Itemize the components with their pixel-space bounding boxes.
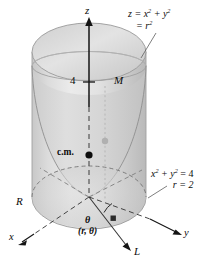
line-L-label: L bbox=[134, 246, 140, 258]
paraboloid-eq2-lhs: = r bbox=[136, 20, 149, 31]
z-axis-arrowhead bbox=[85, 17, 93, 26]
z-axis-label: z bbox=[85, 5, 89, 17]
paraboloid-eq-mid: + y bbox=[151, 8, 167, 19]
mass-element-label: M bbox=[114, 75, 123, 87]
paraboloid-equation-callout: z = x2 + y2 = r2 bbox=[128, 8, 170, 32]
paraboloid-eq2-exp: 2 bbox=[149, 19, 152, 26]
center-of-mass-dot bbox=[85, 151, 92, 158]
x-axis-label: x bbox=[9, 231, 14, 242]
polar-point-label: (r, θ) bbox=[78, 227, 97, 237]
L-arrowhead bbox=[123, 243, 132, 251]
circle-eq-mid: + y bbox=[159, 168, 175, 179]
paraboloid-eq-lhs: z = x bbox=[128, 8, 148, 19]
circle-equation-line2: r = 2 bbox=[151, 180, 193, 191]
figure-container: z 4 M c.m. R x y L θ (r, θ) z = x2 + y2 … bbox=[0, 0, 220, 268]
circle-equation-callout: x2 + y2 = 4 r = 2 bbox=[151, 168, 193, 190]
z-tick-label-4: 4 bbox=[70, 75, 76, 87]
theta-label: θ bbox=[85, 215, 90, 226]
circle-eq-rhs: = 4 bbox=[178, 168, 194, 179]
y-axis-label: y bbox=[184, 227, 189, 238]
x-axis-solid bbox=[22, 234, 34, 242]
region-R-label: R bbox=[16, 196, 23, 208]
M-element-dot bbox=[102, 138, 108, 144]
polar-point-marker bbox=[111, 216, 116, 221]
y-axis-arrowhead bbox=[173, 229, 183, 235]
paraboloid-eq-exp2: 2 bbox=[167, 7, 170, 14]
paraboloid-equation-line2: = r2 bbox=[128, 20, 170, 32]
center-of-mass-label: c.m. bbox=[57, 148, 74, 158]
y-axis-solid bbox=[150, 219, 176, 232]
